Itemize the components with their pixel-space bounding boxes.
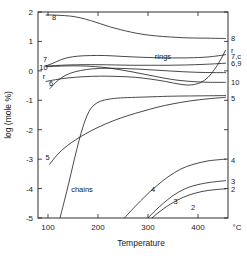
annotation-6: 6	[49, 79, 53, 88]
annotation-10: 10	[39, 63, 47, 72]
edge-label-10: 10	[231, 78, 239, 87]
annotation-chains: chains	[71, 185, 93, 194]
x-tick-label: 100	[41, 223, 55, 232]
plot-frame	[38, 12, 228, 218]
annotation-rings: rings	[155, 52, 172, 61]
y-tick-label: -5	[26, 214, 34, 223]
y-tick-label: -1	[26, 96, 34, 105]
curve-6	[50, 68, 226, 88]
y-tick-label: -4	[26, 185, 34, 194]
edge-label-6-9: 6,9	[231, 59, 241, 68]
x-tick-label: 200	[91, 223, 105, 232]
annotation-2: 2	[191, 203, 195, 212]
annotation-8: 8	[52, 13, 56, 22]
plot-border	[38, 12, 228, 218]
curve-10	[46, 66, 226, 83]
axis-titles: Temperature log (mole %) °C	[3, 91, 242, 248]
x-axis-title: Temperature	[117, 238, 165, 248]
annotation-4: 4	[151, 185, 155, 194]
axis-ticks	[38, 12, 228, 218]
y-tick-labels: 210-1-2-3-4-5	[26, 8, 34, 223]
edge-label-2: 2	[231, 185, 235, 194]
y-tick-label: -2	[26, 126, 34, 135]
right-edge-curve-labels: 8r7,c6,9105432	[231, 34, 241, 194]
x-tick-label: 300	[141, 223, 155, 232]
annotation-5: 5	[45, 153, 49, 162]
curve-3	[148, 181, 226, 218]
edge-label-5: 5	[231, 94, 235, 103]
edge-label-8: 8	[231, 34, 235, 43]
x-axis-unit-label: °C	[233, 223, 242, 232]
curve-chains	[60, 96, 226, 218]
y-tick-label: -3	[26, 155, 34, 164]
annotation-r: r	[43, 72, 46, 81]
y-tick-label: 1	[29, 37, 34, 46]
curve-r	[46, 50, 226, 85]
x-tick-label: 400	[191, 223, 205, 232]
x-tick-labels: 100200300400	[41, 223, 205, 232]
curve-annotations: 8ringschains710r65432	[39, 13, 195, 212]
y-tick-label: 2	[29, 8, 34, 17]
chart-figure: 100200300400 210-1-2-3-4-5 8r7,c6,910543…	[0, 0, 247, 260]
curve-8	[46, 15, 226, 39]
y-tick-label: 0	[29, 67, 34, 76]
annotation-3: 3	[173, 197, 177, 206]
curve-4	[125, 159, 226, 218]
edge-label-4: 4	[231, 156, 235, 165]
chart-svg: 100200300400 210-1-2-3-4-5 8r7,c6,910543…	[0, 0, 247, 260]
y-axis-title: log (mole %)	[3, 91, 13, 139]
